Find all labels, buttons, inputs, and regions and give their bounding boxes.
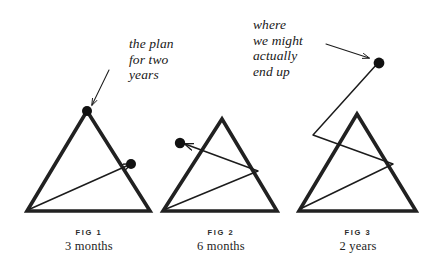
- annotation-the-plan: the plan for two years: [129, 36, 174, 83]
- fig-2-subtitle: 6 months: [161, 239, 281, 254]
- fig-3-subtitle: 2 years: [298, 239, 418, 254]
- endpoint-dot-1: [126, 159, 136, 169]
- actual-annotation-arrow: [326, 44, 369, 58]
- annotation-where-we-might-actually-end-up: where we might actually end up: [253, 17, 303, 79]
- plan-annotation-arrow: [92, 70, 109, 105]
- fig-1-subtitle: 3 months: [29, 239, 149, 254]
- triangle-3: [299, 114, 416, 211]
- figure-illustration: the plan for two years where we might ac…: [0, 0, 443, 268]
- figure-2-group: [163, 119, 277, 211]
- caption-fig-3: FIG 3 2 years: [298, 228, 418, 254]
- figure-1-group: [27, 106, 150, 211]
- fig-1-label: FIG 1: [29, 228, 149, 237]
- caption-fig-1: FIG 1 3 months: [29, 228, 149, 254]
- figure-3-group: [299, 58, 416, 211]
- fig-3-label: FIG 3: [298, 228, 418, 237]
- endpoint-dot-3: [374, 58, 385, 69]
- trajectory-line-1: [30, 164, 131, 209]
- apex-dot-1: [82, 106, 92, 116]
- caption-fig-2: FIG 2 6 months: [161, 228, 281, 254]
- triangle-2: [163, 119, 277, 211]
- fig-2-label: FIG 2: [161, 228, 281, 237]
- endpoint-dot-2: [175, 138, 185, 148]
